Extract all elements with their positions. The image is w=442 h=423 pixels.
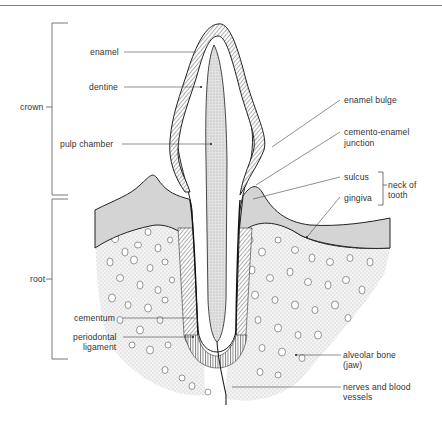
gingiva-label: gingiva — [344, 193, 372, 203]
sulcus-label: sulcus — [344, 172, 369, 182]
dentine-label: dentine — [89, 82, 118, 92]
neck-of-tooth-label-2: tooth — [388, 190, 408, 200]
alveolar-bone-label-2: (jaw) — [343, 360, 362, 370]
crown-label: crown — [20, 102, 43, 112]
root-label: root — [30, 274, 45, 284]
enamel-bulge-label: enamel bulge — [344, 95, 397, 105]
periodontal-ligament-label-1: periodontal — [73, 332, 117, 342]
nerves-label-1: nerves and blood — [343, 382, 411, 392]
cemento-enamel-junction-label-1: cemento-enamel — [344, 127, 409, 137]
periodontal-ligament-label-2: ligament — [83, 342, 116, 352]
neck-of-tooth-label-1: neck of — [388, 180, 416, 190]
root-bracket — [46, 199, 68, 359]
cementum-label: cementum — [74, 313, 115, 323]
cemento-enamel-junction-label-2: junction — [344, 138, 374, 148]
pulp-chamber-label: pulp chamber — [60, 139, 113, 149]
enamel-label: enamel — [90, 47, 119, 57]
nerves-label-2: vessels — [343, 392, 372, 402]
alveolar-bone-label-1: alveolar bone — [343, 350, 396, 360]
neck-bracket — [378, 172, 387, 205]
crown-bracket — [46, 23, 68, 195]
